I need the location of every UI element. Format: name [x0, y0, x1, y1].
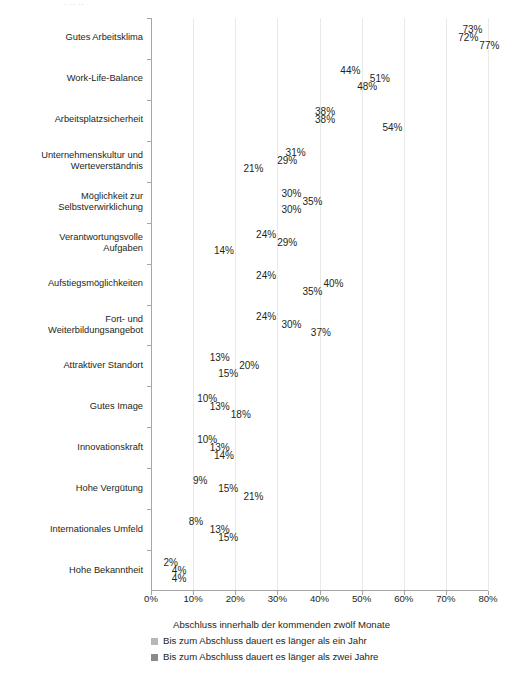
bar: 10% [152, 395, 194, 402]
legend-label: Bis zum Abschluss dauert es länger als e… [163, 633, 367, 649]
category-row: Unternehmenskultur und Werteverständnis3… [151, 141, 488, 182]
gridline [488, 18, 489, 591]
bar: 30% [152, 191, 278, 198]
bar-value-label: 30% [281, 320, 301, 330]
bar: 77% [152, 43, 476, 50]
bar-value-label: 30% [281, 189, 301, 199]
category-label: Internationales Umfeld [3, 524, 143, 535]
bar-value-label: 4% [172, 574, 186, 584]
bar-value-label: 15% [218, 484, 238, 494]
bar: 31% [152, 150, 283, 157]
legend-swatch [151, 654, 158, 661]
bar-value-label: 13% [210, 402, 230, 412]
category-label: Möglichkeit zur Selbstverwirklichung [3, 191, 143, 213]
legend-item[interactable]: Abschluss innerhalb der kommenden zwölf … [151, 617, 491, 633]
bar: 15% [152, 370, 215, 377]
bar-value-label: 24% [256, 271, 276, 281]
clipped-header-artifact: · ·· ·· [64, 0, 134, 7]
category-label: Hohe Bekanntheit [3, 565, 143, 576]
bar-value-label: 15% [218, 369, 238, 379]
bar-value-label: 15% [218, 533, 238, 543]
category-row: Verantwortungsvolle Aufgaben24%29%14% [151, 223, 488, 264]
bar: 4% [152, 575, 169, 582]
bar-value-label: 40% [324, 279, 344, 289]
x-axis-tick-label: 20% [226, 593, 245, 605]
bar-value-label: 13% [210, 353, 230, 363]
category-row: Work-Life-Balance44%51%48% [151, 59, 488, 100]
bar-value-label: 35% [302, 287, 322, 297]
category-label: Arbeitsplatzsicherheit [3, 115, 143, 126]
bar: 73% [152, 27, 460, 34]
category-row: Gutes Image10%13%18% [151, 386, 488, 427]
legend-item[interactable]: Bis zum Abschluss dauert es länger als e… [151, 633, 491, 649]
bar: 72% [152, 35, 455, 42]
bar: 14% [152, 452, 211, 459]
bar: 13% [152, 526, 207, 533]
bar-value-label: 29% [277, 156, 297, 166]
x-axis-tick-label: 60% [394, 593, 413, 605]
bar: 14% [152, 248, 211, 255]
bar: 30% [152, 321, 278, 328]
chart-legend: Abschluss innerhalb der kommenden zwölf … [151, 617, 491, 665]
bar-value-label: 14% [214, 246, 234, 256]
category-row: Gutes Arbeitsklima73%72%77% [151, 18, 488, 59]
category-label: Attraktiver Standort [3, 360, 143, 371]
category-label: Hohe Vergütung [3, 483, 143, 494]
category-row: Internationales Umfeld8%13%15% [151, 509, 488, 550]
bar: 10% [152, 436, 194, 443]
legend-item[interactable]: Bis zum Abschluss dauert es länger als z… [151, 649, 491, 665]
bar: 15% [152, 485, 215, 492]
bar: 21% [152, 493, 240, 500]
bar-value-label: 8% [189, 517, 203, 527]
bar-value-label: 24% [256, 230, 276, 240]
bar-value-label: 30% [281, 205, 301, 215]
bar-value-label: 37% [311, 328, 331, 338]
category-row: Attraktiver Standort13%20%15% [151, 345, 488, 386]
bar: 18% [152, 411, 228, 418]
bar: 38% [152, 109, 312, 116]
bar-value-label: 14% [214, 451, 234, 461]
bar-value-label: 18% [231, 410, 251, 420]
x-axis-tick-label: 70% [436, 593, 455, 605]
bar: 13% [152, 403, 207, 410]
category-label: Work-Life-Balance [3, 74, 143, 85]
bar: 37% [152, 329, 308, 336]
bar: 4% [152, 567, 169, 574]
bar: 24% [152, 273, 253, 280]
x-axis-tick-label: 10% [184, 593, 203, 605]
category-label: Unternehmenskultur und Werteverständnis [3, 150, 143, 172]
category-label: Aufstiegsmöglichkeiten [3, 278, 143, 289]
category-row: Hohe Vergütung9%15%21% [151, 468, 488, 509]
bar: 35% [152, 289, 299, 296]
bar: 9% [152, 477, 190, 484]
bar-value-label: 9% [193, 476, 207, 486]
x-axis-tick-label: 50% [352, 593, 371, 605]
bar-value-label: 54% [382, 123, 402, 133]
bar-value-label: 44% [340, 66, 360, 76]
bar: 21% [152, 166, 240, 173]
bar-value-label: 35% [302, 197, 322, 207]
bar: 35% [152, 199, 299, 206]
bar-value-label: 20% [239, 361, 259, 371]
bar: 24% [152, 232, 253, 239]
bar-value-label: 29% [277, 238, 297, 248]
bar: 54% [152, 125, 379, 132]
bar-chart: · ·· ·· Gutes Arbeitsklima73%72%77%Work-… [0, 0, 510, 687]
category-label: Fort- und Weiterbildungsangebot [3, 314, 143, 336]
legend-swatch [151, 638, 158, 645]
bar-value-label: 24% [256, 312, 276, 322]
category-row: Aufstiegsmöglichkeiten24%40%35% [151, 264, 488, 305]
category-row: Innovationskraft10%13%14% [151, 427, 488, 468]
bar: 40% [152, 281, 321, 288]
category-label: Gutes Image [3, 401, 143, 412]
category-label: Verantwortungsvolle Aufgaben [3, 232, 143, 254]
bar: 30% [152, 207, 278, 214]
category-row: Arbeitsplatzsicherheit38%38%54% [151, 100, 488, 141]
x-axis-tick-label: 30% [268, 593, 287, 605]
bar: 38% [152, 117, 312, 124]
category-label: Innovationskraft [3, 442, 143, 453]
x-axis-tick-labels: 0%10%20%30%40%50%60%70%80% [151, 593, 488, 607]
bar: 13% [152, 444, 207, 451]
bar: 15% [152, 534, 215, 541]
bar: 48% [152, 84, 354, 91]
